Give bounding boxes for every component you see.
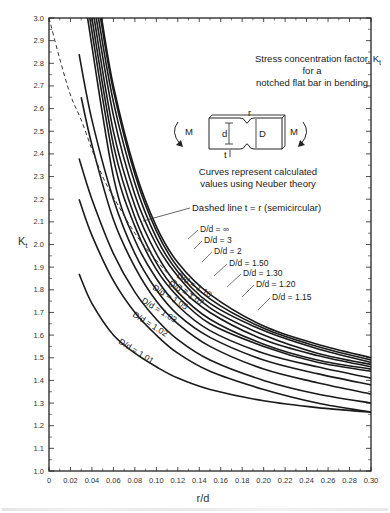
x-tick-label: 0.22: [278, 476, 293, 485]
x-tick-label: 0.04: [85, 476, 100, 485]
x-tick-label: 0.20: [256, 476, 271, 485]
y-tick-label: 1.8: [34, 285, 44, 294]
dim-label-t: t: [224, 149, 227, 160]
y-tick-label: 2.6: [34, 104, 44, 113]
y-tick-label: 2.3: [34, 172, 44, 181]
x-tick-label: 0: [47, 476, 51, 485]
y-tick-label: 1.0: [34, 467, 44, 476]
leader-150: [214, 264, 227, 276]
moment-arrowhead-right-icon: [298, 140, 305, 147]
y-tick-label: 2.9: [34, 36, 44, 45]
bar-outline: [209, 118, 282, 149]
label-dd-2: D/d = 2: [214, 246, 242, 256]
y-tick-label: 2.0: [34, 240, 44, 249]
x-tick-label: 0.02: [63, 476, 78, 485]
label-dd-3: D/d = 3: [204, 235, 232, 245]
dim-label-D: D: [259, 128, 266, 139]
curve-d-d-1-07: [79, 54, 371, 385]
y-tick-label: 1.7: [34, 308, 44, 317]
chart-title-line2: for a: [302, 65, 322, 76]
x-tick-label: 0.30: [364, 476, 379, 485]
kt-chart: 1.01.11.21.31.41.51.61.71.81.92.02.12.22…: [0, 0, 390, 513]
x-tick-label: 0.06: [106, 476, 121, 485]
moment-arrow-left-icon: [174, 122, 180, 144]
x-tick-label: 0.26: [321, 476, 336, 485]
note-line1: Curves represent calculated: [199, 166, 317, 177]
label-dd-130: D/d = 1.30: [243, 268, 283, 278]
x-tick-label: 0.28: [342, 476, 357, 485]
x-axis-label: r/d: [197, 492, 210, 504]
y-tick-label: 1.2: [34, 421, 44, 430]
leader-3: [194, 241, 202, 249]
leader-120: [242, 285, 254, 297]
y-tick-label: 1.9: [34, 263, 44, 272]
moment-label-right: M: [290, 126, 298, 137]
x-tick-label: 0.10: [149, 476, 164, 485]
leader-inf: [188, 230, 198, 239]
y-tick-label: 1.6: [34, 331, 44, 340]
y-axis-label: Kt: [18, 235, 28, 250]
y-tick-label: 1.4: [34, 376, 44, 385]
chart-title-line3: notched flat bar in bending: [256, 77, 368, 88]
moment-arrowhead-left-icon: [176, 140, 183, 147]
y-tick-label: 1.1: [34, 444, 44, 453]
y-tick-label: 1.3: [34, 399, 44, 408]
y-tick-label: 1.5: [34, 353, 44, 362]
y-tick-label: 3.0: [34, 14, 44, 23]
y-tick-label: 2.7: [34, 81, 44, 90]
clipped-caption: [2, 506, 388, 513]
dim-label-r: r: [248, 107, 251, 118]
x-tick-label: 0.14: [192, 476, 207, 485]
y-tick-label: 2.4: [34, 149, 44, 158]
y-tick-label: 2.1: [34, 217, 44, 226]
label-dd-101: D/d = 1.01: [117, 336, 156, 366]
label-dd-150: D/d = 1.50: [229, 258, 269, 268]
label-dd-inf: D/d = ∞: [200, 224, 229, 234]
leader-130: [227, 274, 241, 287]
y-tick-label: 2.8: [34, 59, 44, 68]
moment-arrow-right-icon: [301, 122, 307, 144]
moment-label-left: M: [185, 126, 193, 137]
x-tick-label: 0.18: [235, 476, 250, 485]
x-tick-label: 0.12: [170, 476, 185, 485]
x-tick-labels: 00.020.040.060.080.100.120.140.160.180.2…: [47, 476, 378, 485]
y-tick-labels: 1.01.11.21.31.41.51.61.71.81.92.02.12.22…: [34, 14, 44, 476]
leader-115: [258, 298, 270, 310]
label-dd-120: D/d = 1.20: [256, 279, 296, 289]
x-tick-label: 0.24: [299, 476, 314, 485]
notched-bar-diagram: d D r t M M: [174, 107, 306, 160]
dashed-line-note: Dashed line t = r (semicircular): [192, 202, 321, 213]
dim-label-d: d: [222, 128, 227, 139]
note-line2: values using Neuber theory: [200, 178, 316, 189]
label-dd-115: D/d = 1.15: [272, 292, 312, 302]
y-tick-label: 2.2: [34, 195, 44, 204]
x-tick-label: 0.08: [128, 476, 143, 485]
leader-2: [202, 252, 212, 262]
y-tick-label: 2.5: [34, 127, 44, 136]
x-tick-label: 0.16: [213, 476, 228, 485]
